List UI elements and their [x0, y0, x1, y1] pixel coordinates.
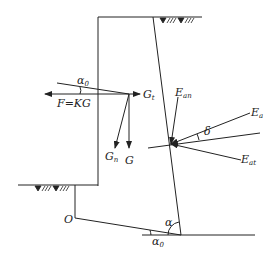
soil-hatch-lower — [35, 186, 69, 191]
label-Ea: Ea — [250, 106, 263, 120]
label-Eat: Eat — [240, 153, 256, 167]
retaining-wall-diagram: α0 F=KG Gt Gn G Ean Ea δ Eat O α α0 — [0, 0, 273, 258]
label-alpha0-bottom: α0 — [152, 235, 164, 249]
label-F: F=KG — [56, 97, 91, 110]
label-Ean: Ean — [174, 86, 192, 100]
alpha0-arc-bottom — [150, 230, 151, 235]
force-Ean-arrow — [171, 97, 178, 144]
label-O: O — [64, 213, 73, 226]
label-alpha0-top: α0 — [77, 74, 89, 88]
label-delta: δ — [204, 125, 211, 138]
label-Gt: Gt — [143, 88, 155, 102]
alpha0-reference-line — [57, 83, 129, 94]
force-Eat-arrow — [171, 144, 241, 160]
soil-hatch-top — [160, 18, 194, 23]
label-alpha: α — [165, 216, 173, 229]
delta-arc — [197, 134, 199, 140]
label-Gn: Gn — [105, 150, 119, 164]
force-Gn-arrow — [115, 94, 129, 148]
wall-back-face — [153, 17, 181, 235]
label-G: G — [125, 154, 134, 167]
alpha0-arc-top — [80, 87, 81, 94]
